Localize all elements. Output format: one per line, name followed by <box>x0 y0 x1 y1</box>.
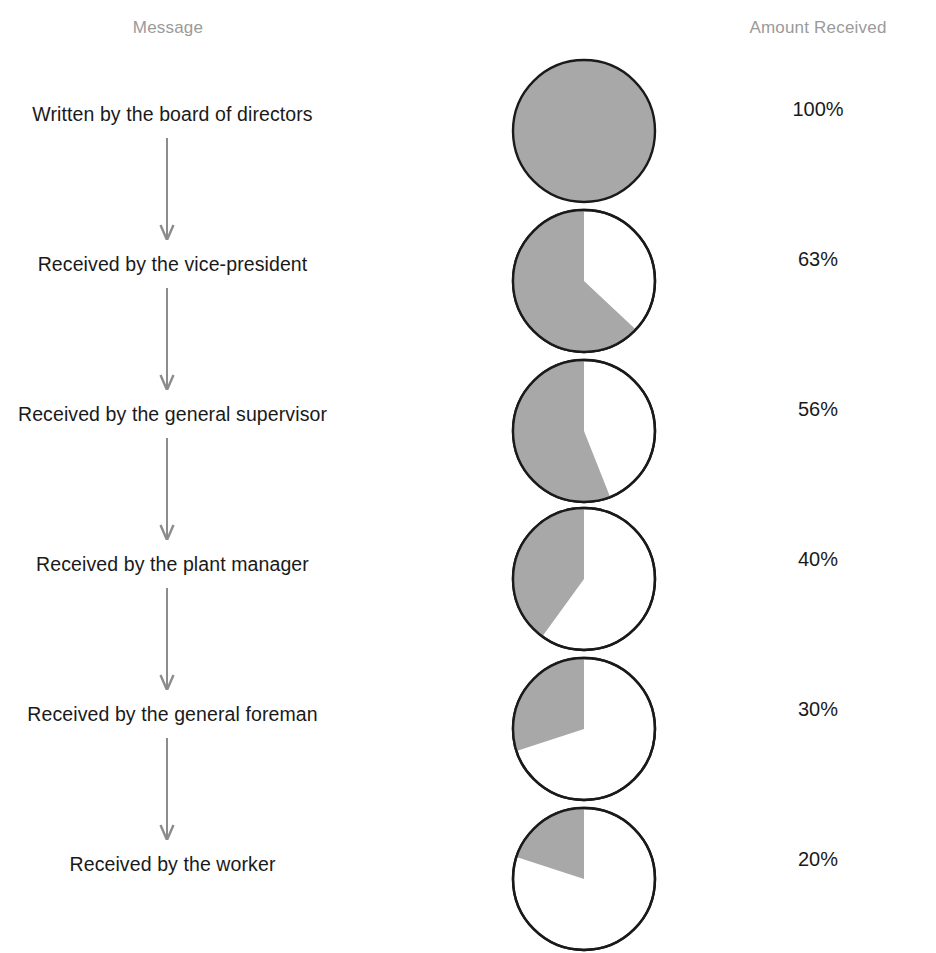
pie-slice-40-percent <box>510 505 658 653</box>
pie-chart-1 <box>510 57 658 205</box>
flow-step-label: Received by the plant manager <box>36 553 309 576</box>
flow-step-label: Written by the board of directors <box>32 103 312 126</box>
flow-step-3: Received by the general supervisor <box>0 398 345 430</box>
flow-step-label: Received by the worker <box>70 853 276 876</box>
pie-chart-3 <box>510 357 658 505</box>
flow-step-1: Written by the board of directors <box>0 98 345 130</box>
amount-received-column: 100%63%56%40%30%20% <box>700 0 936 941</box>
amount-received-value: 63% <box>700 248 936 271</box>
flow-arrow-down-icon <box>157 138 177 240</box>
flow-step-2: Received by the vice-president <box>0 248 345 280</box>
pie-chart-4 <box>510 505 658 653</box>
pie-chart-column <box>500 0 680 941</box>
pie-chart-2 <box>510 207 658 355</box>
flow-arrow-down-icon <box>157 288 177 390</box>
pie-slice-56-percent <box>510 357 658 505</box>
amount-received-value: 30% <box>700 698 936 721</box>
column-header-message: Message <box>0 18 336 38</box>
message-flow-column: Written by the board of directorsReceive… <box>0 60 345 940</box>
flow-step-label: Received by the general supervisor <box>18 403 327 426</box>
flow-arrow-down-icon <box>157 738 177 840</box>
pie-slice-20-percent <box>510 805 658 953</box>
flow-step-6: Received by the worker <box>0 848 345 880</box>
pie-chart-6 <box>510 805 658 953</box>
pie-slice-100-percent <box>510 57 658 205</box>
flow-arrow-down-icon <box>157 438 177 540</box>
amount-received-value: 20% <box>700 848 936 871</box>
pie-slice-63-percent <box>510 207 658 355</box>
amount-received-value: 100% <box>700 98 936 121</box>
amount-received-value: 40% <box>700 548 936 571</box>
flow-step-4: Received by the plant manager <box>0 548 345 580</box>
flow-step-label: Received by the vice-president <box>38 253 308 276</box>
flow-step-label: Received by the general foreman <box>27 703 317 726</box>
pie-slice-30-percent <box>510 655 658 803</box>
flow-step-5: Received by the general foreman <box>0 698 345 730</box>
pie-chart-5 <box>510 655 658 803</box>
flow-arrow-down-icon <box>157 588 177 690</box>
amount-received-value: 56% <box>700 398 936 421</box>
